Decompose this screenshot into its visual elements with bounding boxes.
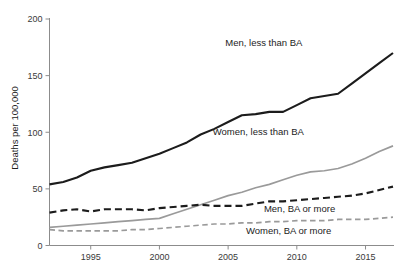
series-label: Men, less than BA: [225, 37, 303, 48]
series-line: [50, 187, 394, 213]
x-tick-label: 1995: [81, 252, 101, 262]
y-tick-label: 50: [32, 184, 42, 194]
y-tick-label: 100: [27, 128, 42, 138]
series-label: Women, BA or more: [246, 225, 331, 236]
series-group: [50, 53, 394, 231]
x-tick-label: 2015: [356, 252, 376, 262]
x-tick-label: 2005: [218, 252, 238, 262]
y-tick-label: 200: [27, 14, 42, 24]
series-label: Men, BA or more: [264, 203, 335, 214]
y-tick-group: 050100150200: [27, 14, 49, 251]
x-tick-group: 19952000200520102015: [81, 246, 376, 262]
y-axis-title: Deaths per 100,000: [9, 86, 20, 169]
series-line: [50, 146, 394, 228]
x-tick-label: 2010: [287, 252, 307, 262]
series-line: [50, 53, 394, 184]
x-tick-label: 2000: [149, 252, 169, 262]
y-tick-label: 150: [27, 71, 42, 81]
y-tick-label: 0: [37, 241, 42, 251]
series-label: Women, less than BA: [213, 126, 305, 137]
line-chart: 050100150200 19952000200520102015 Men, l…: [0, 0, 403, 277]
chart-container: 050100150200 19952000200520102015 Men, l…: [0, 0, 403, 277]
